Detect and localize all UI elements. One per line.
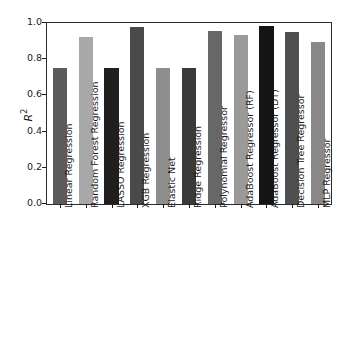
x-axis-tick-label: Ridge Regression xyxy=(193,126,203,208)
y-axis-tick-mark xyxy=(42,167,46,168)
x-axis-tick-mark xyxy=(86,204,87,208)
x-axis-tick-label: AdaBoost Regressor (RF) xyxy=(245,90,255,208)
x-axis-tick-label: XGB Regression xyxy=(141,133,151,208)
x-axis-tick-label: Random Forest Regression xyxy=(90,82,100,209)
x-axis-tick-label: Linear Regression xyxy=(64,123,74,208)
x-axis-tick-mark xyxy=(266,204,267,208)
y-axis-tick-label: 0.2 xyxy=(18,162,42,172)
x-axis-tick-mark xyxy=(292,204,293,208)
y-axis-tick-labels: 0.00.20.40.60.81.0 xyxy=(16,0,42,340)
y-axis-tick-label: 1.0 xyxy=(18,17,42,27)
y-axis-tick-label: 0.8 xyxy=(18,53,42,63)
y-axis-tick-label: 0.4 xyxy=(18,126,42,136)
x-axis-tick-mark xyxy=(137,204,138,208)
y-axis-tick-label: 0.6 xyxy=(18,89,42,99)
x-axis-tick-label: MLP Regressor xyxy=(322,139,332,208)
x-axis-tick-mark xyxy=(318,204,319,208)
x-axis-tick-label: Polynomial Regressor xyxy=(219,106,229,208)
x-axis-tick-label: Elastic Net xyxy=(167,157,177,208)
y-axis-tick-mark xyxy=(42,22,46,23)
x-axis-tick-label: Decision Tree Regressor xyxy=(296,95,306,209)
y-axis-tick-mark xyxy=(42,58,46,59)
x-axis-tick-label: LASSO Regression xyxy=(116,121,126,208)
x-axis-tick-mark xyxy=(215,204,216,208)
x-axis-tick-mark xyxy=(163,204,164,208)
x-axis-tick-label: AdaBoost Regressor (DT) xyxy=(270,89,280,208)
x-axis-tick-mark xyxy=(241,204,242,208)
y-axis-tick-mark xyxy=(42,203,46,204)
y-axis-tick-label: 0.0 xyxy=(18,198,42,208)
bar-chart-figure: R2 0.00.20.40.60.81.0 Linear RegressionR… xyxy=(0,0,347,340)
x-axis-tick-labels: Linear RegressionRandom Forest Regressio… xyxy=(47,208,331,338)
x-axis-tick-mark xyxy=(60,204,61,208)
y-axis-tick-mark xyxy=(42,131,46,132)
y-axis-tick-mark xyxy=(42,94,46,95)
x-axis-tick-mark xyxy=(189,204,190,208)
x-axis-tick-mark xyxy=(112,204,113,208)
